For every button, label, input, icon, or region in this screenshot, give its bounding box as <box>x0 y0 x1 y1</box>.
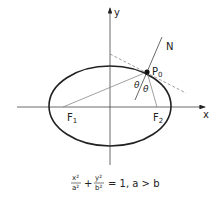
y-axis-label: y <box>114 7 120 18</box>
point-p0 <box>144 69 149 74</box>
f1-label: F1 <box>67 112 77 125</box>
svg-text:x²: x² <box>72 174 79 182</box>
svg-text:a²: a² <box>72 184 79 192</box>
equation: x² a² + y² b² = 1, a > b <box>71 174 160 192</box>
ellipse-diagram: y x N P0 F1 F2 θ θ x² a² + y² b² = 1, a … <box>0 0 220 200</box>
svg-text:y²: y² <box>95 174 102 182</box>
svg-text:= 1, a > b: = 1, a > b <box>108 178 160 189</box>
angle-label-1: θ <box>134 80 140 90</box>
x-axis-label: x <box>203 109 209 120</box>
angle-label-2: θ <box>143 84 149 94</box>
normal-label: N <box>166 41 173 52</box>
svg-text:+: + <box>84 178 92 189</box>
svg-text:b²: b² <box>95 184 102 192</box>
f2-label: F2 <box>153 112 163 125</box>
